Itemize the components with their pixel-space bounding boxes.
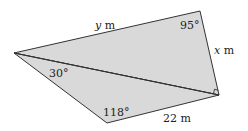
label-angle-95: 95°	[180, 19, 200, 32]
geometry-diagram: y m 95° x m 30° 118° 22 m	[0, 0, 248, 131]
label-side-22: 22 m	[163, 112, 191, 125]
label-angle-118: 118°	[103, 106, 130, 119]
label-angle-30: 30°	[49, 67, 69, 80]
label-side-x: x m	[214, 44, 235, 57]
label-side-y: y m	[94, 19, 116, 32]
